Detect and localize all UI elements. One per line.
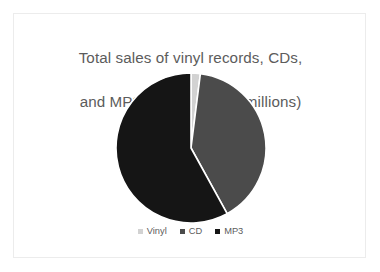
pie-chart [115,72,267,224]
legend-swatch-mp3-icon [215,229,220,234]
chart-title-line-1: Total sales of vinyl records, CDs, [79,49,303,66]
chart-legend: Vinyl CD MP3 [14,226,367,237]
chart-card: Total sales of vinyl records, CDs, and M… [13,13,366,258]
pie-slice-group [116,73,266,223]
legend-label-mp3: MP3 [224,226,243,237]
pie-chart-svg [115,72,267,224]
legend-swatch-vinyl-icon [138,229,143,234]
chart-screenshot: Total sales of vinyl records, CDs, and M… [0,0,380,272]
legend-label-cd: CD [189,226,202,237]
legend-item-cd[interactable]: CD [180,226,202,237]
legend-label-vinyl: Vinyl [147,226,167,237]
legend-swatch-cd-icon [180,229,185,234]
legend-item-mp3[interactable]: MP3 [215,226,243,237]
legend-item-vinyl[interactable]: Vinyl [138,226,167,237]
